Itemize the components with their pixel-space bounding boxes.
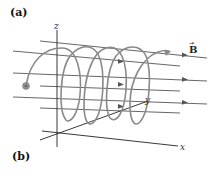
field-arrow-icon <box>118 82 124 87</box>
trajectory-arrow-icon <box>164 50 171 56</box>
z-axis-label: z <box>53 21 59 31</box>
vector-arrow-icon: → <box>189 39 194 46</box>
figure: (a) <box>0 0 212 176</box>
x-axis <box>42 131 178 146</box>
charged-particle-icon <box>23 83 30 90</box>
field-line <box>13 97 207 104</box>
helix-diagram: z x y B → <box>0 0 212 176</box>
x-axis-label: x <box>180 142 185 152</box>
panel-label-b: (b) <box>12 150 30 163</box>
field-line <box>40 108 180 113</box>
field-line <box>13 73 207 81</box>
field-arrow-icon <box>182 77 188 82</box>
field-arrow-icon <box>182 100 188 105</box>
field-lines <box>13 41 207 113</box>
field-arrow-icon <box>182 53 188 58</box>
y-axis-label: y <box>144 95 151 105</box>
